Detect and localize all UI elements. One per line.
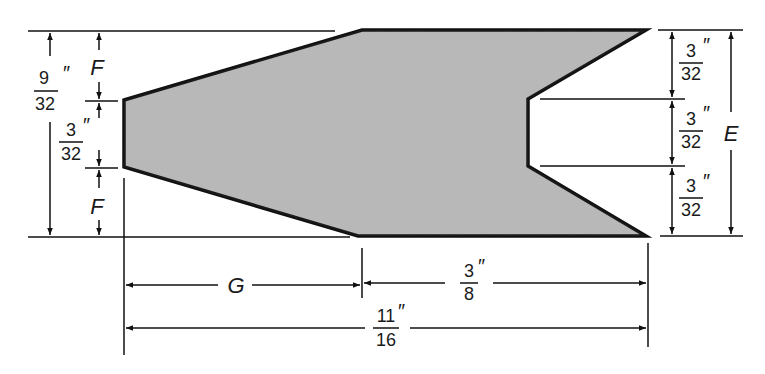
dim-left-total-label: 9 32 ″ xyxy=(34,62,70,114)
svg-text:11: 11 xyxy=(377,306,396,326)
svg-text:32: 32 xyxy=(35,94,55,114)
svg-text:9: 9 xyxy=(39,68,49,88)
dim-right-top-label: 3 32 ″ xyxy=(679,34,710,84)
var-F-bottom: F xyxy=(90,194,105,219)
svg-text:3: 3 xyxy=(686,109,696,129)
svg-text:32: 32 xyxy=(681,64,701,84)
svg-text:32: 32 xyxy=(61,144,81,164)
svg-text:3: 3 xyxy=(464,261,474,281)
svg-text:3: 3 xyxy=(66,120,76,140)
svg-text:″: ″ xyxy=(63,62,70,84)
svg-text:8: 8 xyxy=(464,284,474,304)
svg-text:″: ″ xyxy=(703,34,710,56)
dim-right-bottom-label: 3 32 ″ xyxy=(679,170,710,220)
svg-text:″: ″ xyxy=(83,114,90,136)
svg-text:16: 16 xyxy=(376,330,396,350)
svg-text:3: 3 xyxy=(686,176,696,196)
dim-bottom-right-label: 3 8 ″ xyxy=(460,255,485,304)
svg-text:″: ″ xyxy=(398,300,405,322)
part-drawing: 9 32 ″ F 3 32 ″ F 3 32 ″ 3 32 xyxy=(0,0,765,374)
svg-text:3: 3 xyxy=(686,41,696,61)
part-shape xyxy=(124,30,646,236)
svg-text:32: 32 xyxy=(681,200,701,220)
dim-bottom-total-label: 11 16 ″ xyxy=(373,300,405,350)
svg-text:32: 32 xyxy=(681,132,701,152)
var-G: G xyxy=(227,273,244,298)
var-E: E xyxy=(724,121,739,146)
dim-right-middle-label: 3 32 ″ xyxy=(679,102,710,152)
svg-text:″: ″ xyxy=(478,255,485,277)
dim-left-middle-label: 3 32 ″ xyxy=(59,114,90,164)
svg-text:″: ″ xyxy=(703,102,710,124)
var-F-top: F xyxy=(90,55,105,80)
svg-text:″: ″ xyxy=(703,170,710,192)
